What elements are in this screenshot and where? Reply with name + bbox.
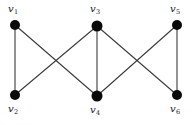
node-layer — [10, 20, 182, 102]
node-label-symbol: v — [170, 103, 176, 114]
node-label-symbol: v — [8, 103, 14, 114]
node-label-v1: v1 — [8, 4, 18, 14]
node-label-subscript: 3 — [96, 8, 100, 16]
node-label-subscript: 6 — [176, 108, 180, 116]
node-label-subscript: 1 — [14, 8, 18, 16]
node-label-v3: v3 — [90, 4, 100, 14]
node-label-symbol: v — [8, 3, 14, 14]
node-label-subscript: 4 — [96, 109, 100, 117]
edge-layer — [15, 25, 177, 96]
graph-node-v4 — [92, 91, 103, 102]
graph-node-v6 — [172, 90, 182, 100]
node-label-v4: v4 — [90, 105, 100, 115]
graph-node-v3 — [92, 21, 103, 32]
node-label-symbol: v — [170, 3, 176, 14]
node-label-subscript: 5 — [176, 8, 180, 16]
graph-node-v1 — [10, 20, 20, 30]
graph-node-v2 — [10, 90, 20, 100]
node-label-v6: v6 — [170, 104, 180, 114]
node-label-symbol: v — [90, 104, 96, 115]
graph-node-v5 — [172, 20, 182, 30]
node-label-subscript: 2 — [14, 108, 18, 116]
node-label-symbol: v — [90, 3, 96, 14]
node-label-v5: v5 — [170, 4, 180, 14]
node-label-v2: v2 — [8, 104, 18, 114]
graph-figure: v1v2v3v4v5v6 — [0, 0, 195, 125]
